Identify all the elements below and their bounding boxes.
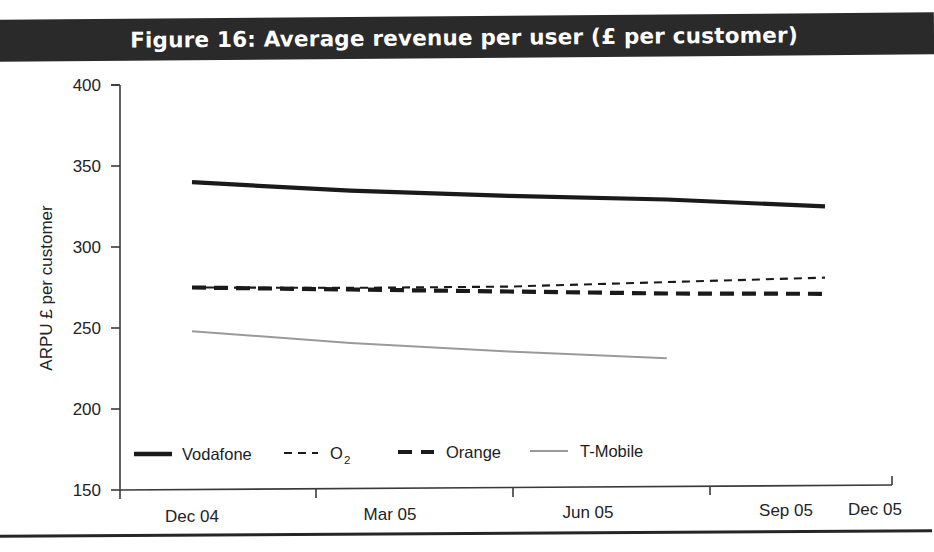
chart-legend: Vodafone O 2 Orange T-Mobile bbox=[134, 442, 643, 466]
y-tick-label-350: 350 bbox=[73, 157, 101, 176]
y-tick-label-150: 150 bbox=[73, 481, 101, 500]
x-axis-line bbox=[120, 485, 892, 490]
x-tick-label-sep05: Sep 05 bbox=[759, 501, 813, 520]
legend-label-o2-subscript: 2 bbox=[344, 454, 350, 466]
figure-chart-area: 400 350 300 250 200 150 ARPU £ per custo… bbox=[0, 58, 926, 528]
series-line-o2 bbox=[192, 278, 825, 288]
legend-label-tmobile: T-Mobile bbox=[580, 442, 643, 460]
y-axis-ticks bbox=[111, 85, 120, 490]
page-bottom-rule bbox=[0, 529, 932, 538]
line-chart: 400 350 300 250 200 150 ARPU £ per custo… bbox=[0, 58, 926, 528]
x-tick-label-dec05: Dec 05 bbox=[848, 500, 902, 519]
legend-label-vodafone: Vodafone bbox=[182, 445, 252, 463]
x-tick-label-mar05: Mar 05 bbox=[364, 505, 417, 524]
legend-label-orange: Orange bbox=[446, 443, 501, 461]
figure-title-banner: Figure 16: Average revenue per user (£ p… bbox=[0, 12, 934, 61]
y-tick-label-300: 300 bbox=[73, 238, 101, 257]
legend-label-o2: O bbox=[330, 444, 343, 462]
y-tick-label-200: 200 bbox=[73, 400, 101, 419]
y-tick-label-400: 400 bbox=[73, 76, 101, 95]
x-tick-label-dec04: Dec 04 bbox=[165, 507, 219, 526]
series-line-vodafone bbox=[192, 182, 825, 206]
series-group bbox=[192, 182, 825, 358]
series-line-orange bbox=[192, 288, 825, 294]
y-axis-title: ARPU £ per customer bbox=[37, 205, 56, 371]
y-tick-label-250: 250 bbox=[73, 319, 101, 338]
x-tick-label-jun05: Jun 05 bbox=[562, 503, 613, 522]
series-line-tmobile bbox=[192, 331, 667, 358]
figure-title-text: Figure 16: Average revenue per user (£ p… bbox=[130, 22, 798, 52]
